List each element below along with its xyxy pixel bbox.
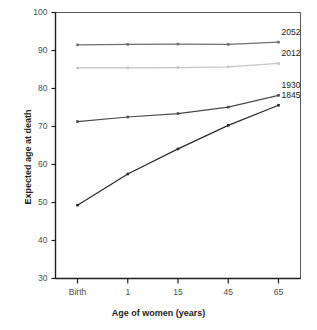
data-point-1930-45: [227, 106, 230, 109]
y-tick-label: 40: [22, 236, 48, 245]
y-tick-label: 90: [22, 46, 48, 55]
data-point-1845-Birth: [76, 204, 79, 207]
data-point-2012-65: [277, 62, 280, 65]
y-tick-label: 100: [22, 8, 48, 17]
x-tick-label: 15: [155, 288, 201, 297]
data-point-1930-1: [126, 116, 129, 119]
series-label-2012: 2012: [282, 49, 301, 58]
data-point-2052-1: [126, 43, 129, 46]
x-tick-label: 65: [256, 288, 302, 297]
y-tick-label: 80: [22, 84, 48, 93]
line-chart: Expected age at death Age of women (year…: [0, 0, 317, 330]
x-axis-title: Age of women (years): [0, 308, 317, 318]
y-tick-label: 60: [22, 160, 48, 169]
data-point-2052-45: [227, 43, 230, 46]
series-label-2052: 2052: [282, 28, 301, 37]
x-tick-label: Birth: [55, 288, 101, 297]
data-point-2012-1: [126, 67, 129, 70]
series-label-1930: 1930: [282, 81, 301, 90]
data-point-1845-65: [277, 104, 280, 107]
data-point-2012-15: [177, 66, 180, 69]
data-point-2052-Birth: [76, 44, 79, 47]
plot-box-border: [56, 13, 301, 279]
data-point-2052-65: [277, 41, 280, 44]
data-point-1845-1: [126, 173, 129, 176]
data-point-1930-Birth: [76, 120, 79, 123]
x-tick-label: 45: [205, 288, 251, 297]
data-point-1845-15: [177, 148, 180, 151]
series-label-1845: 1845: [282, 91, 301, 100]
series-line-1845: [78, 105, 279, 205]
data-point-1845-45: [227, 124, 230, 127]
y-tick-label: 70: [22, 122, 48, 131]
axis-tick-marks: [52, 13, 279, 284]
y-axis-title: Expected age at death: [23, 77, 33, 237]
data-point-2012-45: [227, 66, 230, 69]
data-point-1930-15: [177, 112, 180, 115]
data-point-1930-65: [277, 94, 280, 97]
data-series-layer: [76, 41, 280, 207]
y-tick-label: 50: [22, 198, 48, 207]
data-point-2052-15: [177, 43, 180, 46]
plot-frame: [56, 13, 301, 279]
y-tick-label: 30: [22, 274, 48, 283]
data-point-2012-Birth: [76, 67, 79, 70]
x-tick-label: 1: [105, 288, 151, 297]
